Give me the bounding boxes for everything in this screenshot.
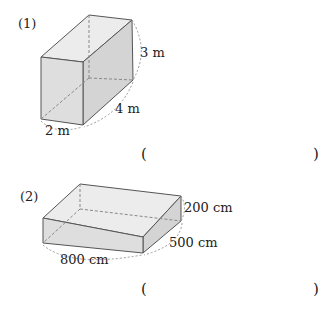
problem-1-width: 2 m: [45, 123, 70, 138]
answer-2-open-paren: (: [141, 280, 147, 298]
answer-1-field[interactable]: [152, 146, 312, 164]
answer-1-open-paren: (: [141, 145, 147, 163]
answer-2-close-paren: ): [313, 280, 319, 298]
problem-1-label: (1): [18, 16, 36, 31]
answer-1-close-paren: ): [313, 145, 319, 163]
cuboid-2: [43, 184, 185, 260]
problem-1-depth: 4 m: [115, 101, 140, 116]
problem-2-width: 800 cm: [60, 252, 109, 267]
problem-2-height: 200 cm: [184, 200, 233, 215]
answer-2-field[interactable]: [152, 281, 312, 299]
problem-2-depth: 500 cm: [169, 235, 218, 250]
problem-2-label: (2): [20, 189, 38, 204]
problem-1-height: 3 m: [140, 45, 165, 60]
